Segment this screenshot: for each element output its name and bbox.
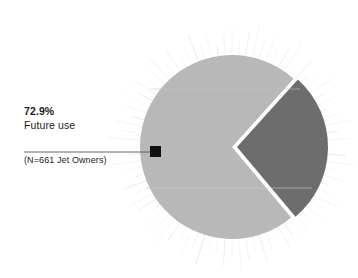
callout-marker-square[interactable] (150, 146, 161, 157)
callout-sample-note: (N=661 Jet Owners) (24, 155, 107, 165)
callout-percent: 72.9% (24, 104, 154, 118)
callout-text-block: 72.9% Future use (24, 104, 154, 132)
callout-label: Future use (24, 118, 154, 132)
pie-chart-figure (0, 0, 358, 278)
